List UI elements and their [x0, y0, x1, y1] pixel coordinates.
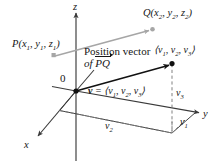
- vector-diagram-figure: P(x1, y1, z1) Q(x2, y2, z2) 0 z y x Posi…: [0, 0, 222, 166]
- point-p-coord2-sub: 1: [40, 44, 43, 51]
- origin-point-marker: [73, 88, 78, 93]
- component-v3-sub: 3: [180, 93, 183, 100]
- vector-tip-coordinates-label: ⟨v1, v2, v3⟩: [154, 45, 195, 58]
- segment-pq-text: PQ: [95, 57, 110, 69]
- diagram-canvas: [0, 0, 222, 166]
- point-q-coord2-sub: 2: [172, 13, 175, 20]
- tip-close-angle: ⟩: [191, 44, 195, 55]
- point-q-name: Q: [143, 7, 151, 18]
- position-vector-caption: Position vector of PQ: [84, 46, 150, 69]
- point-p-marker: [52, 53, 56, 57]
- position-vector-caption-prefix: of: [84, 57, 93, 69]
- point-q-close-paren: ): [188, 7, 192, 18]
- axis-x-label: x: [24, 139, 29, 150]
- axis-y-label: y: [203, 108, 208, 119]
- vector-c2-sub: 2: [125, 91, 128, 98]
- tip-c2-sub: 2: [175, 50, 178, 57]
- vector-equals-sign: =: [95, 85, 102, 96]
- vector-c1-sub: 1: [113, 91, 116, 98]
- position-vector-caption-line1: Position vector: [84, 45, 150, 57]
- point-q-coord1-sub: 2: [159, 13, 162, 20]
- axis-y-negative-stub: [52, 87, 76, 92]
- point-p-close-paren: ): [56, 38, 60, 49]
- point-q-label: Q(x2, y2, z2): [143, 7, 192, 20]
- component-v2-label: v2: [105, 121, 113, 134]
- segment-pq-arrow-tip-icon: [110, 53, 113, 57]
- vector-tip-marker: [169, 61, 174, 66]
- component-v1-label: v1: [180, 117, 188, 130]
- component-v2-sub: 2: [109, 126, 112, 133]
- vector-equation-label: v = ⟨v1, v2, v3⟩: [88, 86, 145, 99]
- origin-label: 0: [60, 73, 66, 85]
- component-v3-label: v3: [176, 88, 184, 101]
- point-q-marker: [150, 27, 155, 32]
- axis-z-label: z: [73, 1, 77, 12]
- projection-edge-origin-to-x: [60, 91, 77, 111]
- segment-pq-overline: PQ: [95, 58, 110, 70]
- vector-close-angle: ⟩: [141, 85, 145, 96]
- tip-c1-sub: 1: [162, 50, 165, 57]
- component-v1-sub: 1: [184, 122, 187, 129]
- vector-symbol-v: v: [88, 85, 92, 96]
- point-p-coord1-sub: 1: [27, 44, 30, 51]
- point-p-label: P(x1, y1, z1): [12, 38, 60, 51]
